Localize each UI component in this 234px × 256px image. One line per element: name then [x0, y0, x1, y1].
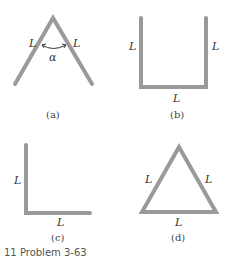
- figure-footer: 11 Problem 3-63: [4, 247, 87, 256]
- caption-b: (b): [170, 109, 184, 120]
- rod-l: [26, 145, 90, 213]
- rod-u: [141, 18, 206, 87]
- label-a-right: L: [72, 37, 80, 50]
- caption-c: (c): [51, 232, 65, 243]
- angle-arc: [42, 45, 66, 49]
- label-b-left: L: [128, 40, 136, 53]
- label-d-bottom: L: [174, 216, 182, 229]
- panel-d: L L L (d): [142, 147, 216, 243]
- label-a-left: L: [28, 37, 36, 50]
- caption-d: (d): [171, 232, 185, 243]
- label-d-left: L: [144, 173, 152, 186]
- caption-a: (a): [46, 109, 60, 120]
- label-a-angle: α: [49, 51, 57, 64]
- panel-b: L L L (b): [128, 18, 219, 120]
- figure-canvas: L L α (a) L L L (b) L L (c) L L L (d): [0, 0, 234, 256]
- label-b-bottom: L: [172, 92, 180, 105]
- label-c-left: L: [13, 174, 21, 187]
- panel-c: L L (c): [13, 145, 90, 243]
- label-b-right: L: [211, 40, 219, 53]
- panel-a: L L α (a): [15, 18, 92, 120]
- label-d-right: L: [204, 173, 212, 186]
- label-c-bottom: L: [56, 216, 64, 229]
